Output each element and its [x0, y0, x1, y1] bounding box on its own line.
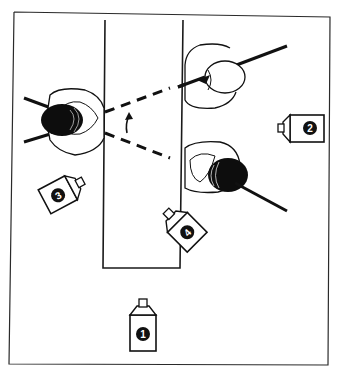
gaze-lines	[105, 88, 170, 158]
person-right-top	[178, 44, 287, 108]
camera-2-label: 2	[307, 123, 313, 134]
camera-4-icon: 4	[156, 201, 207, 252]
gaze-shift-arrow-icon	[125, 112, 133, 133]
person-left	[24, 89, 104, 155]
camera-1-label: 1	[140, 329, 146, 340]
diagram-canvas: 1 2 3 4	[0, 0, 339, 376]
camera-3-icon: 3	[38, 169, 90, 213]
person-right-bottom	[185, 142, 287, 211]
camera-1-icon: 1	[130, 299, 156, 351]
camera-2-icon: 2	[278, 115, 324, 142]
